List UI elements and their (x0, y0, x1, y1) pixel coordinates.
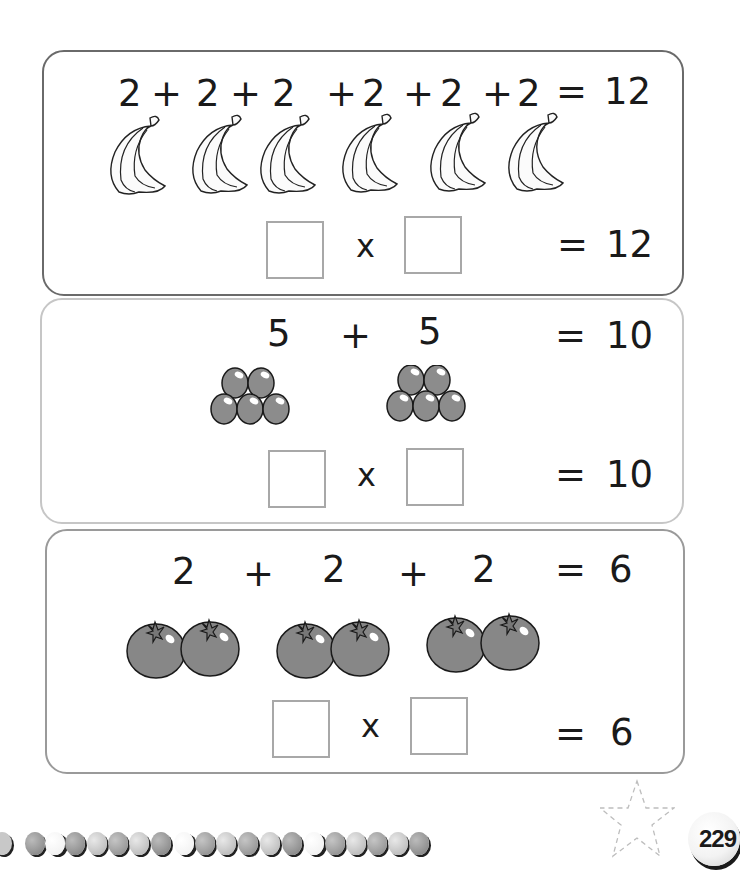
multiply-sign: x (356, 230, 375, 262)
addend: 2 (472, 551, 496, 588)
addend: 5 (418, 313, 442, 350)
banana-icon (431, 113, 485, 191)
equals-sign: = (555, 715, 586, 752)
bead-icon (151, 832, 171, 855)
equals-sign: = (555, 317, 586, 354)
banana-icon (111, 116, 165, 194)
product: 6 (610, 714, 634, 751)
plus-sign: + (398, 555, 429, 592)
addend: 5 (267, 315, 291, 352)
banana-icon (509, 113, 563, 191)
plus-sign: + (482, 75, 513, 112)
sum: 6 (609, 551, 633, 588)
plus-sign: + (403, 75, 434, 112)
addend: 2 (440, 75, 464, 112)
tomato-group (125, 608, 545, 683)
bead-icon (304, 832, 324, 855)
equals-sign: = (556, 73, 587, 110)
bead-icon (238, 832, 258, 855)
addend: 2 (196, 75, 220, 112)
answer-box-factor-1[interactable] (268, 450, 326, 508)
plus-sign: + (340, 317, 371, 354)
tomato-pair-icon (127, 620, 239, 678)
plus-sign: + (243, 555, 274, 592)
plus-sign: + (151, 75, 182, 112)
star-outline-icon (600, 778, 675, 863)
bead-icon (282, 832, 302, 855)
bead-icon (216, 832, 236, 855)
addend: 2 (322, 551, 346, 588)
answer-box-factor-1[interactable] (272, 700, 330, 758)
bead-icon (45, 832, 65, 855)
tomato-pair-icon (277, 620, 389, 678)
banana-icon (193, 115, 247, 193)
product: 10 (606, 456, 653, 493)
banana-group (95, 110, 655, 200)
addend: 2 (362, 75, 386, 112)
answer-box-factor-1[interactable] (266, 221, 324, 279)
plus-sign: + (326, 75, 357, 112)
berry-group (205, 365, 495, 440)
bead-icon (325, 832, 345, 855)
addend: 2 (172, 553, 196, 590)
bead-icon (0, 832, 12, 855)
page-number: 229 (699, 825, 736, 853)
banana-icon (343, 114, 397, 192)
berry-bunch-icon (387, 365, 465, 421)
page-number-badge: 229 (688, 812, 740, 866)
sum: 10 (606, 317, 653, 354)
bead-icon (388, 832, 408, 855)
bead-icon (367, 832, 387, 855)
answer-box-factor-2[interactable] (410, 697, 468, 755)
bead-icon (87, 832, 107, 855)
equals-sign: = (557, 226, 588, 263)
bead-icon (65, 832, 85, 855)
bead-icon (409, 832, 429, 855)
bead-icon (346, 832, 366, 855)
product: 12 (606, 226, 653, 263)
tomato-pair-icon (427, 614, 539, 672)
bead-icon (25, 832, 45, 855)
addend: 2 (272, 75, 296, 112)
bead-icon (195, 832, 215, 855)
banana-icon (261, 115, 315, 193)
bead-icon (108, 832, 128, 855)
bead-icon (260, 832, 280, 855)
plus-sign: + (230, 75, 261, 112)
addend: 2 (118, 75, 142, 112)
equals-sign: = (555, 456, 586, 493)
berry-bunch-icon (211, 368, 289, 424)
sum: 12 (604, 73, 651, 110)
multiply-sign: x (357, 459, 376, 491)
multiply-sign: x (361, 710, 380, 742)
addend: 2 (517, 75, 541, 112)
answer-box-factor-2[interactable] (406, 448, 464, 506)
bead-icon (174, 832, 194, 855)
bead-icon (129, 832, 149, 855)
equals-sign: = (555, 551, 586, 588)
answer-box-factor-2[interactable] (404, 216, 462, 274)
